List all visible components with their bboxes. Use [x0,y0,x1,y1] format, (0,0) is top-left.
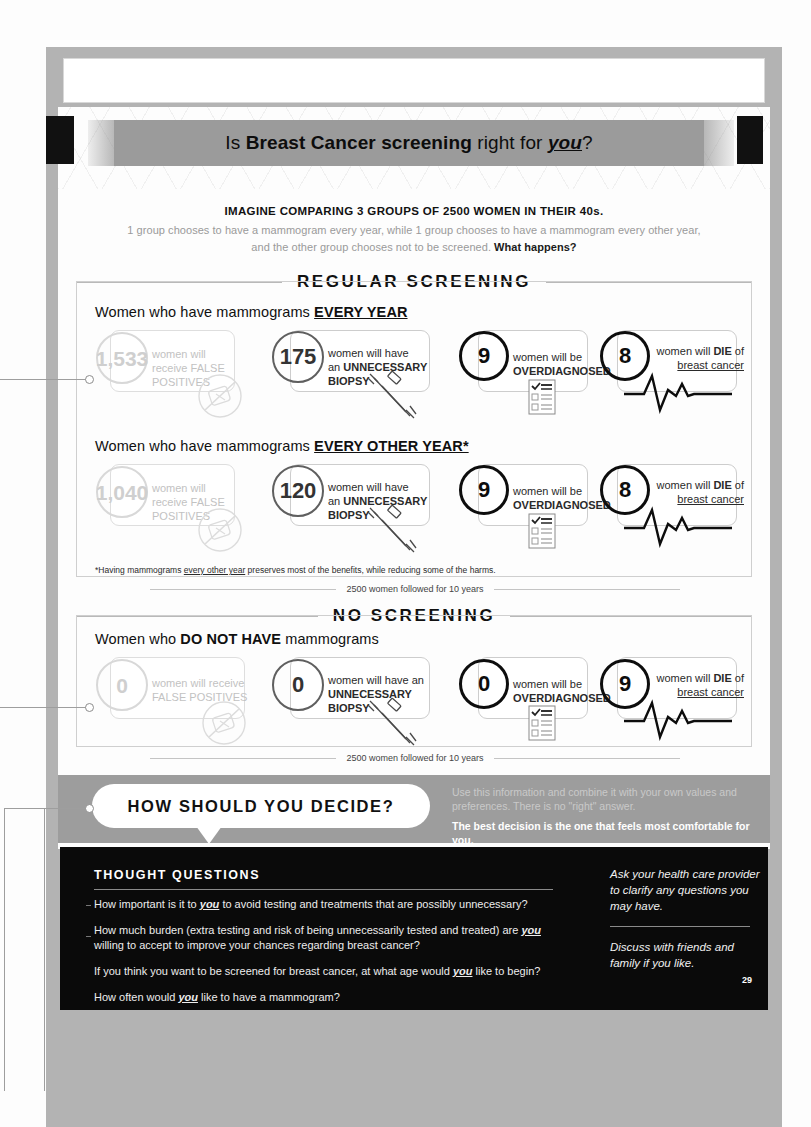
bio-line3-ey: BIOPSY [328,375,370,387]
no-mammogram-icon [200,699,248,747]
tq3-post: like to begin? [473,965,541,977]
thought-questions-divider [94,889,553,890]
banner-tab-left [46,116,74,164]
stat-value-8-die-eoy: 8 [619,479,631,501]
list-item: How often would you like to have a mammo… [94,990,559,1005]
row-title-no-mammograms: Women who DO NOT HAVE mammograms [95,631,379,647]
page-title-bold: Breast Cancer screening [246,132,472,153]
card-text-die-eoy: women will DIE of breast cancer [652,478,744,506]
banner-tab-right [737,116,763,164]
fp-line1-eoy: women will [152,482,206,494]
tq4-you: you [178,991,198,1003]
thought-questions-sidebar: Ask your health care provider to clarify… [610,866,762,971]
stat-circle-9-overdiag-eoy: 9 [459,465,509,515]
annotation-marker-3[interactable] [85,804,94,813]
tq1-you: you [200,898,220,910]
stat-value-0-fp: 0 [116,675,128,696]
row-title-eoy-underline: EVERY OTHER YEAR* [314,438,469,454]
stat-circle-0-biopsy: 0 [272,659,324,711]
die-line1pre-ey: women will [657,345,714,357]
page-title-pre: Is [225,132,245,153]
annotation-bracket-vertical [4,808,5,1091]
footnote-post: preserves most of the benefits, while re… [245,565,495,575]
stat-circle-175: 175 [272,331,324,383]
card-text-die-ey: women will DIE of breast cancer [652,344,744,372]
fp-line1-ey: women will [152,348,206,360]
tq3-you: you [453,965,473,977]
card-text-overdiag-eoy: women will be OVERDIAGNOSED [513,484,603,512]
bio-line1-eoy: women will have [328,481,409,493]
tq1-pre: How important is it to [94,898,200,910]
bio-line3-eoy: BIOPSY [328,509,370,521]
intro-line1: 1 group chooses to have a mammogram ever… [127,224,700,236]
row-title-every-year-underline: EVERY YEAR [314,304,407,320]
row-title-ns-post: mammograms [281,631,379,647]
tq3-pre: If you think you want to be screened for… [94,965,453,977]
page-title-mid: right for [472,132,548,153]
biopsy-needle-icon [366,699,422,747]
bio-line1-ns: women will have an [328,674,424,686]
od-line1-ey: women will be [513,351,582,363]
page-title-banner: Is Breast Cancer screening right for you… [114,120,704,166]
list-item: How much burden (extra testing and risk … [94,923,559,953]
fp-line2pre-ey: receive [152,362,191,374]
annotation-marker-1[interactable] [85,375,94,384]
page-title-post: ? [582,132,593,153]
thought-questions-title: THOUGHT QUESTIONS [94,868,260,882]
stat-circle-1040: 1,040 [96,466,148,518]
stat-circle-1533: 1,533 [96,332,148,384]
annotation-leader-line-1 [0,379,86,380]
die-line1post-ns: of [732,672,744,684]
no-mammogram-icon [196,506,244,554]
stat-value-1040: 1,040 [96,482,149,503]
tq2-pre: How much burden (extra testing and risk … [94,924,521,936]
heartbeat-flatline-icon [622,504,734,548]
die-line1pre-eoy: women will [657,479,714,491]
bio-line2pre-ey: an [328,361,343,373]
clipboard-checklist-icon [527,512,557,550]
caption-label-no-screening: 2500 women followed for 10 years [336,753,493,763]
row-title-every-year-pre: Women who have mammograms [95,304,314,320]
annotation-marker-2[interactable] [85,703,94,712]
stat-circle-0-fp: 0 [96,659,148,711]
row-title-ns-bold: DO NOT HAVE [180,631,281,647]
die-line1bold-eoy: DIE [713,479,731,491]
side-note-2: Discuss with friends and family if you l… [610,939,762,971]
list-item: How important is it to you to avoid test… [94,897,559,912]
heartbeat-flatline-icon [622,370,734,414]
caption-label-regular: 2500 women followed for 10 years [336,584,493,594]
bio-line3-ns: BIOPSY [328,702,370,714]
stat-value-9-overdiag-eoy: 9 [478,479,490,501]
intro-line2-bold: What happens? [494,241,577,253]
tq1-post: to avoid testing and treatments that are… [219,898,527,910]
caption-line-left [150,589,336,590]
decide-copy: Use this information and combine it with… [452,785,762,847]
caption-line-right [494,589,680,590]
clipboard-checklist-icon [527,704,557,742]
how-should-you-decide-bubble: HOW SHOULD YOU DECIDE? [92,784,430,828]
tq2-post: willing to accept to improve your chance… [94,939,420,951]
intro-block: IMAGINE COMPARING 3 GROUPS OF 2500 WOMEN… [58,205,770,256]
page-number: 29 [742,975,752,985]
caption-line-left-ns [150,758,336,759]
tq4-post: like to have a mammogram? [198,991,340,1003]
caption-line-right-ns [494,758,680,759]
row-title-eoy-pre: Women who have mammograms [95,438,314,454]
decide-bubble-label: HOW SHOULD YOU DECIDE? [128,797,395,816]
stat-value-120: 120 [280,480,317,502]
stat-value-0-biopsy: 0 [292,674,304,696]
die-line1pre-ns: women will [657,672,714,684]
footnote-every-other-year: *Having mammograms every other year pres… [95,565,496,575]
die-line1post-ey: of [732,345,744,357]
intro-heading: IMAGINE COMPARING 3 GROUPS OF 2500 WOMEN… [58,205,770,217]
fp-line2pre-eoy: receive [152,496,191,508]
row-title-ns-pre: Women who [95,631,180,647]
caption-rule-regular: 2500 women followed for 10 years [150,584,680,594]
biopsy-needle-icon [366,506,422,554]
page-title: Is Breast Cancer screening right for you… [225,132,592,154]
die-line1bold-ey: DIE [713,345,731,357]
footnote-pre: *Having mammograms [95,565,184,575]
stat-value-0-overdiag: 0 [478,673,490,695]
stat-value-9-overdiag-ey: 9 [478,345,490,367]
intro-line2-pre: and the other group chooses not to be sc… [251,241,494,253]
